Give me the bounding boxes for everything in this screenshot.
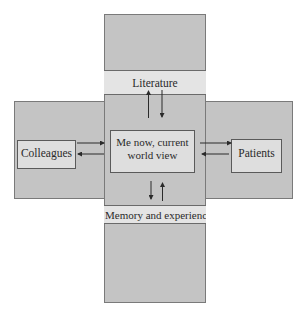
arrows-layer — [0, 0, 303, 320]
